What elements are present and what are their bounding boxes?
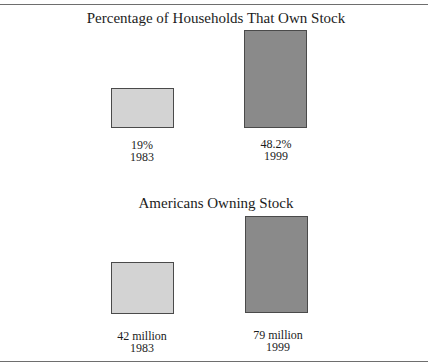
chart-title: Americans Owning Stock xyxy=(0,194,432,212)
bar-1983 xyxy=(111,88,174,128)
bar-1999 xyxy=(245,216,308,313)
year-label-1983: 1983 xyxy=(92,151,192,163)
bar-1999 xyxy=(244,30,307,128)
top-rule xyxy=(0,4,428,5)
chart-title: Percentage of Households That Own Stock xyxy=(0,9,432,27)
bar-1983 xyxy=(111,262,174,314)
year-label-1983: 1983 xyxy=(92,342,192,354)
year-label-1999: 1999 xyxy=(228,341,328,353)
year-label-1999: 1999 xyxy=(226,150,326,162)
bottom-rule xyxy=(0,361,428,362)
